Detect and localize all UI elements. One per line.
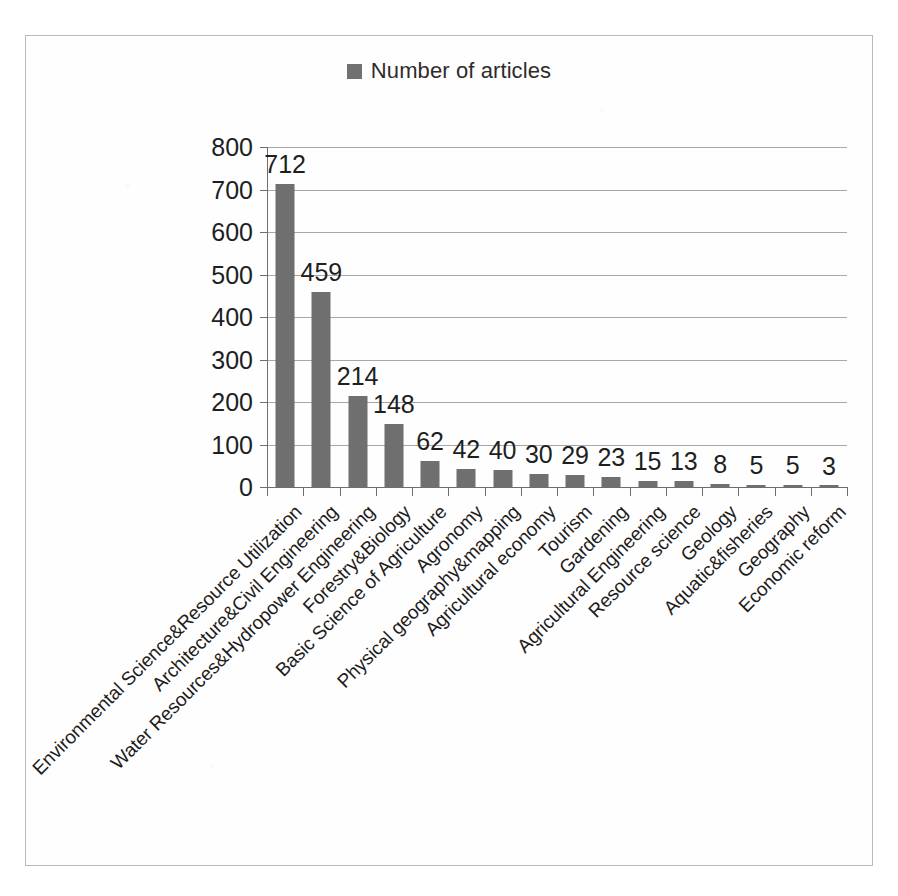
x-tick-mark — [521, 487, 522, 496]
bar[interactable] — [819, 485, 838, 487]
bar-value-label: 23 — [597, 445, 625, 470]
bar-value-label: 42 — [452, 437, 480, 462]
bar-value-label: 459 — [301, 260, 343, 285]
bar-slot[interactable]: 29 — [557, 147, 593, 487]
x-tick-mark — [303, 487, 304, 496]
bar-slot[interactable]: 148 — [376, 147, 412, 487]
chart-legend: Number of articles — [26, 58, 872, 84]
bar[interactable] — [312, 292, 331, 487]
x-tick-mark — [847, 487, 848, 496]
x-category-label: Water Resources&Hydropower Engineering — [106, 501, 379, 774]
y-tick-label: 0 — [239, 473, 253, 502]
bar-value-label: 40 — [489, 438, 517, 463]
y-tick-label: 800 — [211, 133, 253, 162]
bar-value-label: 15 — [634, 449, 662, 474]
bar[interactable] — [602, 477, 621, 487]
y-tick-label: 100 — [211, 430, 253, 459]
bar[interactable] — [674, 481, 693, 487]
bar[interactable] — [783, 485, 802, 487]
bar-slot[interactable]: 459 — [303, 147, 339, 487]
bar-value-label: 62 — [416, 429, 444, 454]
bar-slot[interactable]: 3 — [811, 147, 847, 487]
bar-value-label: 30 — [525, 442, 553, 467]
bar-slot[interactable]: 40 — [485, 147, 521, 487]
bar[interactable] — [384, 424, 403, 487]
bar-slot[interactable]: 62 — [412, 147, 448, 487]
x-tick-mark — [775, 487, 776, 496]
bar-slot[interactable]: 214 — [340, 147, 376, 487]
bar-value-label: 214 — [337, 364, 379, 389]
x-tick-mark — [485, 487, 486, 496]
x-tick-mark — [412, 487, 413, 496]
x-tick-mark — [702, 487, 703, 496]
bar-value-label: 29 — [561, 443, 589, 468]
bar-slot[interactable]: 15 — [630, 147, 666, 487]
bar[interactable] — [421, 461, 440, 487]
bar[interactable] — [747, 485, 766, 487]
x-tick-mark — [557, 487, 558, 496]
x-tick-mark — [340, 487, 341, 496]
x-tick-mark — [811, 487, 812, 496]
legend-label: Number of articles — [371, 58, 551, 84]
bar[interactable] — [566, 475, 585, 487]
x-category-label: Environmental Science&Resource Utilizati… — [28, 501, 306, 779]
bar[interactable] — [276, 184, 295, 487]
bar-slot[interactable]: 5 — [738, 147, 774, 487]
y-tick-label: 300 — [211, 345, 253, 374]
bar-value-label: 148 — [373, 392, 415, 417]
x-tick-mark — [376, 487, 377, 496]
x-tick-mark — [448, 487, 449, 496]
y-tick-label: 500 — [211, 260, 253, 289]
bar-value-label: 13 — [670, 449, 698, 474]
y-tick-label: 700 — [211, 175, 253, 204]
chart-frame: Number of articles 010020030040050060070… — [25, 35, 873, 866]
legend-square-marker-icon — [347, 64, 362, 79]
bar-slot[interactable]: 712 — [267, 147, 303, 487]
bar-slot[interactable]: 5 — [775, 147, 811, 487]
bar-slot[interactable]: 13 — [666, 147, 702, 487]
bar[interactable] — [348, 396, 367, 487]
bar-slot[interactable]: 8 — [702, 147, 738, 487]
bar[interactable] — [711, 484, 730, 487]
y-tick-label: 200 — [211, 388, 253, 417]
bar-value-label: 8 — [713, 452, 727, 477]
bar-value-label: 5 — [749, 453, 763, 478]
bar[interactable] — [457, 469, 476, 487]
y-tick-label: 400 — [211, 303, 253, 332]
bar[interactable] — [529, 474, 548, 487]
bar-slot[interactable]: 23 — [593, 147, 629, 487]
x-tick-mark — [666, 487, 667, 496]
x-tick-mark — [267, 487, 268, 496]
bar-series: 71245921414862424030292315138553 — [267, 147, 847, 487]
bar[interactable] — [638, 481, 657, 487]
x-tick-mark — [630, 487, 631, 496]
y-tick-label: 600 — [211, 218, 253, 247]
bar-value-label: 712 — [264, 152, 306, 177]
x-tick-mark — [593, 487, 594, 496]
bar-value-label: 5 — [786, 453, 800, 478]
x-tick-mark — [738, 487, 739, 496]
bar[interactable] — [493, 470, 512, 487]
bar-value-label: 3 — [822, 454, 836, 479]
bar-slot[interactable]: 42 — [448, 147, 484, 487]
bar-slot[interactable]: 30 — [521, 147, 557, 487]
plot-area: 0100200300400500600700800 71245921414862… — [267, 147, 847, 487]
